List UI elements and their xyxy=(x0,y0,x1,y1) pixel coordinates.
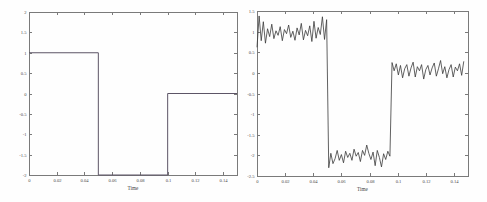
x-tick-label: 0.02 xyxy=(53,178,62,183)
y-tick-label: 0.5 xyxy=(249,50,255,55)
signal-line xyxy=(29,53,237,175)
y-tick-label: 1.5 xyxy=(249,9,255,14)
x-tick-label: 0.12 xyxy=(422,179,431,184)
y-tick-label: -1 xyxy=(23,132,28,137)
y-tick-label: -1.5 xyxy=(247,133,255,138)
x-tick-label: 0 xyxy=(256,179,259,184)
y-tick-label: 0.5 xyxy=(21,71,27,76)
y-tick-label: 0 xyxy=(252,71,255,76)
y-tick-label: 1 xyxy=(252,30,255,35)
x-tick-label: 0.1 xyxy=(166,178,172,183)
x-tick-label: 0.1 xyxy=(396,179,402,184)
y-tick-label: 0 xyxy=(24,92,27,97)
x-tick-label: 0.08 xyxy=(366,179,375,184)
x-tick-label: 0.06 xyxy=(108,178,117,183)
y-tick-label: -2 xyxy=(251,153,256,158)
y-tick-label: -2.5 xyxy=(247,174,255,179)
y-tick-label: 1 xyxy=(24,51,27,56)
signal-line xyxy=(257,16,464,168)
axes-clean-signal: 00.020.040.060.080.10.120.14-2-1.5-1-0.5… xyxy=(0,0,244,202)
x-tick-label: 0.02 xyxy=(281,179,290,184)
y-tick-label: 2 xyxy=(24,10,27,15)
y-tick-label: 1.5 xyxy=(21,30,27,35)
axes-noisy-signal: 00.020.040.060.080.10.120.14-2.5-2-1.5-1… xyxy=(244,0,487,202)
chart-panel-clean-signal: 00.020.040.060.080.10.120.14-2-1.5-1-0.5… xyxy=(0,0,244,202)
x-tick-label: 0.12 xyxy=(191,178,200,183)
x-tick-label: 0.14 xyxy=(219,178,228,183)
x-tick-label: 0.08 xyxy=(136,178,145,183)
x-axis-label: Time xyxy=(357,186,368,192)
y-tick-label: -1.5 xyxy=(19,153,27,158)
x-tick-label: 0.14 xyxy=(450,179,459,184)
y-tick-label: -1 xyxy=(251,112,256,117)
x-tick-label: 0 xyxy=(28,178,31,183)
y-tick-label: -0.5 xyxy=(247,92,255,97)
x-tick-label: 0.06 xyxy=(337,179,346,184)
x-axis-label: Time xyxy=(128,185,139,191)
y-tick-label: -0.5 xyxy=(19,112,27,117)
y-tick-label: -2 xyxy=(23,173,28,178)
chart-panel-noisy-signal: 00.020.040.060.080.10.120.14-2.5-2-1.5-1… xyxy=(244,0,487,202)
x-tick-label: 0.04 xyxy=(80,178,89,183)
x-tick-label: 0.04 xyxy=(309,179,318,184)
figure-canvas: 00.020.040.060.080.10.120.14-2-1.5-1-0.5… xyxy=(0,0,487,202)
